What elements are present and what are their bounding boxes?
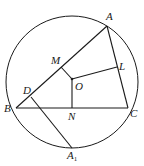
label-A1: A1 [66,149,78,163]
label-N: N [67,110,76,122]
label-A1-subscript: 1 [74,155,78,163]
label-D: D [22,84,31,96]
segment-OM [61,67,72,79]
label-O: O [75,80,83,92]
label-M: M [50,54,61,66]
segment-OL [72,67,117,79]
label-C: C [130,107,138,119]
geometry-diagram: A B C M O L N D A1 [0,0,144,166]
label-A: A [105,10,113,22]
label-L: L [118,60,125,72]
label-B: B [4,102,11,114]
segment-DA1 [31,97,72,148]
point-O-marker [71,78,74,81]
